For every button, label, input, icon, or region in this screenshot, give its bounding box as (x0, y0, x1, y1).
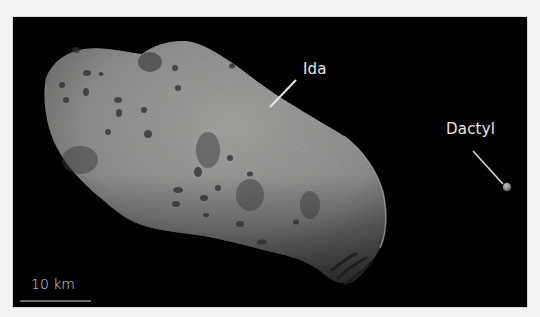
asteroid-scene (13, 17, 527, 307)
label-ida: Ida (303, 62, 327, 77)
asteroid-ida (44, 41, 385, 284)
image-panel: Ida Dactyl 10 km (13, 17, 527, 307)
dactyl-leader-line (473, 151, 503, 184)
scale-bar-label: 10 km (31, 277, 75, 291)
label-dactyl: Dactyl (446, 122, 495, 137)
moon-dactyl (503, 183, 511, 191)
